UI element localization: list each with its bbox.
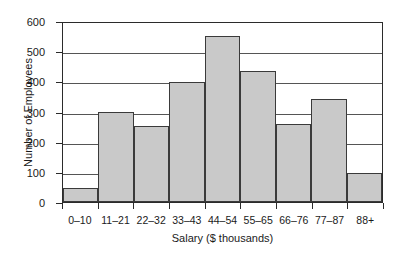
x-axis-labels: 0–1011–2122–3233–4344–5455–6566–7677–878… <box>62 212 383 228</box>
bar[interactable] <box>98 112 133 203</box>
x-tick-mark <box>62 203 63 209</box>
y-tick-label: 500 <box>27 45 45 59</box>
bar-slot <box>63 23 98 202</box>
x-tick-mark <box>312 203 313 209</box>
x-tick-label: 0–10 <box>62 212 98 228</box>
plot-area <box>62 22 383 203</box>
y-tick-label: 400 <box>27 75 45 89</box>
x-axis-ticks <box>62 203 383 211</box>
x-tick-mark <box>133 203 134 209</box>
bar-slot <box>205 23 240 202</box>
x-tick-label: 33–43 <box>169 212 205 228</box>
bar-slot <box>276 23 311 202</box>
x-tick-mark <box>98 203 99 209</box>
bar-series <box>63 23 382 202</box>
bar[interactable] <box>63 188 98 202</box>
x-tick-mark <box>240 203 241 209</box>
y-axis-ticks: 0100200300400500600 <box>0 0 62 276</box>
x-tick-mark <box>383 203 384 209</box>
bar[interactable] <box>240 71 275 202</box>
x-tick-label: 77–87 <box>312 212 348 228</box>
x-tick-label: 11–21 <box>98 212 134 228</box>
bar[interactable] <box>205 36 240 202</box>
bar-slot <box>134 23 169 202</box>
x-tick-mark <box>276 203 277 209</box>
histogram-chart: Number of Employees 0100200300400500600 … <box>0 0 400 276</box>
y-tick-label: 200 <box>27 136 45 150</box>
x-tick-mark <box>205 203 206 209</box>
y-tick-label: 0 <box>39 196 45 210</box>
x-tick-label: 88+ <box>347 212 383 228</box>
bar-slot <box>169 23 204 202</box>
y-tick-label: 300 <box>27 106 45 120</box>
bar[interactable] <box>276 124 311 202</box>
bar[interactable] <box>169 82 204 202</box>
bar-slot <box>98 23 133 202</box>
bar-slot <box>240 23 275 202</box>
bar[interactable] <box>134 126 169 202</box>
x-tick-label: 66–76 <box>276 212 312 228</box>
bar[interactable] <box>347 173 382 202</box>
x-axis-title: Salary ($ thousands) <box>62 232 383 244</box>
x-tick-mark <box>169 203 170 209</box>
x-tick-mark <box>347 203 348 209</box>
x-tick-label: 44–54 <box>205 212 241 228</box>
x-tick-label: 22–32 <box>133 212 169 228</box>
x-tick-label: 55–65 <box>240 212 276 228</box>
y-tick-label: 100 <box>27 166 45 180</box>
bar-slot <box>347 23 382 202</box>
y-tick-label: 600 <box>27 15 45 29</box>
bar-slot <box>311 23 346 202</box>
bar[interactable] <box>311 99 346 202</box>
